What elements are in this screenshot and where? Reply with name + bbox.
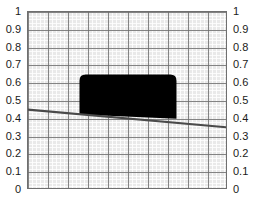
plot-svg bbox=[28, 12, 226, 188]
y-axis-left-tick-6: 0.4 bbox=[6, 112, 21, 123]
y-axis-left-tick-1: 0.9 bbox=[6, 23, 21, 34]
y-axis-right-tick-5: 0.5 bbox=[233, 95, 248, 106]
y-axis-right-tick-1: 0.9 bbox=[233, 23, 248, 34]
y-axis-right-tick-7: 0.3 bbox=[233, 130, 248, 141]
y-axis-left-tick-9: 0.1 bbox=[6, 166, 21, 177]
y-axis-left-tick-0: 1 bbox=[15, 6, 21, 17]
y-axis-left-tick-3: 0.7 bbox=[6, 59, 21, 70]
y-axis-left-tick-2: 0.8 bbox=[6, 41, 21, 52]
plot-area bbox=[27, 11, 227, 189]
y-axis-left-tick-5: 0.5 bbox=[6, 95, 21, 106]
y-axis-right-tick-2: 0.8 bbox=[233, 41, 248, 52]
y-axis-right-tick-3: 0.7 bbox=[233, 59, 248, 70]
y-axis-left-tick-8: 0.2 bbox=[6, 148, 21, 159]
y-axis-left: 1 0.9 0.8 0.7 0.6 0.5 0.4 0.3 0.2 0.1 0 bbox=[0, 11, 24, 189]
series-filled-block bbox=[79, 74, 176, 118]
y-axis-right-tick-0: 1 bbox=[233, 6, 239, 17]
y-axis-right: 1 0.9 0.8 0.7 0.6 0.5 0.4 0.3 0.2 0.1 0 bbox=[230, 11, 254, 189]
chart-container: 1 0.9 0.8 0.7 0.6 0.5 0.4 0.3 0.2 0.1 0 … bbox=[0, 0, 254, 200]
y-axis-right-tick-8: 0.2 bbox=[233, 148, 248, 159]
y-axis-right-tick-4: 0.6 bbox=[233, 77, 248, 88]
y-axis-left-tick-10: 0 bbox=[15, 184, 21, 195]
y-axis-left-tick-7: 0.3 bbox=[6, 130, 21, 141]
y-axis-left-tick-4: 0.6 bbox=[6, 77, 21, 88]
y-axis-right-tick-6: 0.4 bbox=[233, 112, 248, 123]
y-axis-right-tick-9: 0.1 bbox=[233, 166, 248, 177]
y-axis-right-tick-10: 0 bbox=[233, 184, 239, 195]
